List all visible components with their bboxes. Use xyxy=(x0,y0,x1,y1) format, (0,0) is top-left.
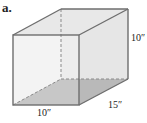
width-dimension-label: 10″ xyxy=(37,107,51,118)
rectangular-prism-diagram xyxy=(0,0,147,123)
height-dimension-label: 10″ xyxy=(131,32,145,43)
depth-dimension-label: 15″ xyxy=(108,99,122,110)
